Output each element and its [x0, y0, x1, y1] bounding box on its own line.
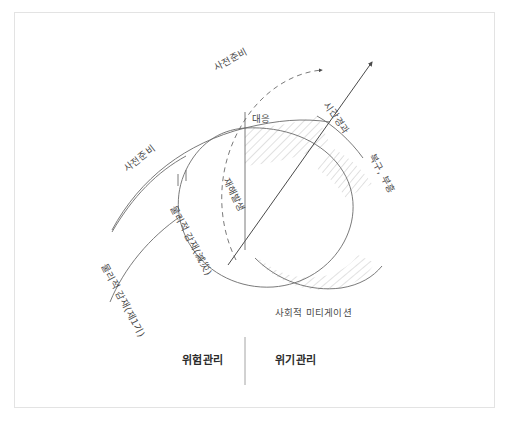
preparation-dashed-arc — [222, 70, 322, 260]
label-risk-management: 위험관리 — [182, 355, 223, 366]
label-crisis-management: 위기관리 — [275, 355, 316, 366]
diagram-graphics — [0, 0, 509, 422]
label-social-mitigation: 사회적 미티게이션 — [275, 308, 352, 318]
label-response: 대응 — [252, 114, 270, 124]
diagram-canvas: 사전준비 사전준비 시간경과 대응 복구, 부흥 재해발생 물리적 감재(減災)… — [0, 0, 509, 422]
